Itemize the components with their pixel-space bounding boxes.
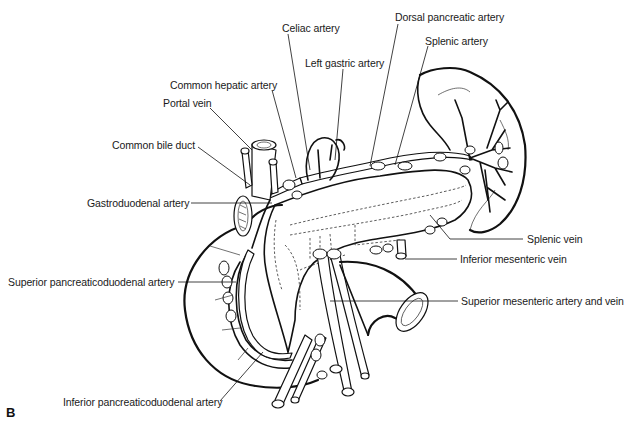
label-inferior-pancreaticoduodenal-artery: Inferior pancreaticoduodenal artery — [63, 396, 222, 408]
label-splenic-artery: Splenic artery — [425, 35, 488, 47]
label-common-bile-duct: Common bile duct — [112, 139, 195, 151]
label-superior-pancreaticoduodenal-artery: Superior pancreaticoduodenal artery — [8, 276, 174, 288]
label-inferior-mesenteric-vein: Inferior mesenteric vein — [460, 253, 567, 265]
label-common-hepatic-artery: Common hepatic artery — [170, 79, 277, 91]
panel-label: B — [6, 405, 15, 420]
label-portal-vein: Portal vein — [163, 97, 212, 109]
label-splenic-vein: Splenic vein — [527, 233, 582, 245]
jejunum-cut — [390, 287, 435, 337]
pancreas-outline — [275, 170, 472, 352]
duodenal-bulb-cut — [234, 196, 252, 236]
common-bile-duct-vessel — [242, 150, 252, 188]
label-celiac-artery: Celiac artery — [282, 22, 340, 34]
anatomy-diagram: Celiac artery Dorsal pancreatic artery S… — [0, 0, 630, 422]
label-left-gastric-artery: Left gastric artery — [305, 57, 384, 69]
label-superior-mesenteric-artery-and-vein: Superior mesenteric artery and vein — [461, 295, 624, 307]
label-dorsal-pancreatic-artery: Dorsal pancreatic artery — [395, 11, 504, 23]
label-gastroduodenal-artery: Gastroduodenal artery — [87, 197, 189, 209]
